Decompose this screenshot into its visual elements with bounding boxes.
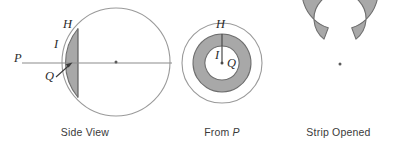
label-i-side-view: I (53, 37, 59, 51)
label-i-from-p: I (214, 48, 220, 62)
strip-opened-c-shape (302, 0, 378, 39)
caption-side-view-text: Side View (61, 126, 109, 138)
label-h-from-p: H (215, 17, 226, 31)
panel-side-view: P H I Q (13, 8, 172, 116)
caption-strip-opened-text: Strip Opened (306, 126, 370, 138)
caption-from-p-prefix: From (204, 126, 232, 138)
from-p-center-dot (221, 62, 224, 65)
caption-from-p-italic: P (233, 126, 240, 138)
label-q-side-view: Q (45, 69, 54, 83)
label-q-from-p: Q (227, 56, 236, 70)
panel-from-p: H I Q (182, 17, 262, 103)
label-p-side-view: P (13, 51, 22, 65)
strip-opened-center-dot (339, 63, 342, 66)
panel-strip-opened (302, 0, 378, 65)
caption-side-view: Side View (0, 126, 170, 138)
label-h-side-view: H (62, 17, 73, 31)
caption-strip-opened: Strip Opened (272, 126, 405, 138)
geometry-figure: P H I Q H I Q (0, 0, 405, 146)
caption-from-p: From P (152, 126, 292, 138)
figure-canvas: P H I Q H I Q (0, 0, 405, 146)
sphere-center-dot (115, 61, 118, 64)
